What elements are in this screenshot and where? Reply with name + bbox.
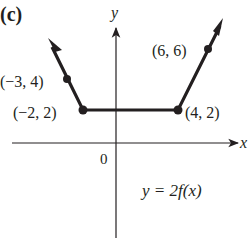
point-4-2 [174,106,183,115]
right-arrow-icon [213,18,223,36]
point-neg3-4 [63,75,71,83]
point-label-6-6: (6, 6) [152,42,187,60]
left-arrow-icon [48,38,62,52]
panel-label: (c) [0,3,22,26]
y-axis-label: y [109,4,119,22]
equation-label: y = 2f(x) [140,181,202,200]
point-neg2-2 [79,106,88,115]
point-label-neg2-2: (−2, 2) [13,104,57,122]
graph-canvas: (c) y x 0 (−3, 4) (−2, 2) (4, 2) (6, 6) … [0,0,250,238]
graph-curve [52,26,220,110]
point-label-neg3-4: (−3, 4) [0,73,44,91]
point-6-6 [204,45,212,53]
origin-label: 0 [100,151,108,167]
point-label-4-2: (4, 2) [185,104,220,122]
x-axis-label: x [239,134,247,151]
